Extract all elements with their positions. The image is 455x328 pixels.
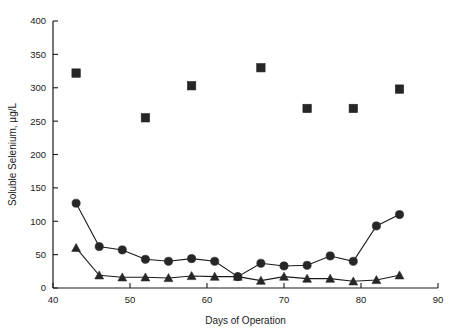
data-point-circle [164, 257, 172, 265]
x-axis-title: Days of Operation [205, 315, 286, 326]
x-tick-label: 90 [433, 294, 444, 305]
series-line-circles [76, 203, 399, 276]
data-point-square [72, 69, 80, 77]
y-tick-label: 250 [30, 116, 46, 127]
y-tick-label: 150 [30, 182, 46, 193]
y-tick-label: 400 [30, 15, 46, 26]
data-point-circle [118, 246, 126, 254]
data-point-square [187, 82, 195, 90]
y-tick-label: 200 [30, 149, 46, 160]
data-point-circle [303, 261, 311, 269]
y-tick-label: 350 [30, 49, 46, 60]
y-tick-label: 300 [30, 82, 46, 93]
selenium-scatter-chart: 050100150200250300350400 405060708090 Da… [0, 0, 455, 328]
data-point-circle [95, 243, 103, 251]
data-point-triangle [72, 244, 81, 252]
data-point-square [257, 64, 265, 72]
data-series-layer [72, 64, 404, 285]
data-point-square [141, 114, 149, 122]
data-point-circle [72, 199, 80, 207]
y-tick-label: 50 [35, 249, 46, 260]
data-point-circle [280, 262, 288, 270]
data-point-square [303, 104, 311, 112]
y-axis-ticks: 050100150200250300350400 [30, 15, 58, 293]
series-squares [72, 64, 404, 122]
data-point-circle [395, 210, 403, 218]
data-point-circle [326, 252, 334, 260]
x-tick-label: 80 [356, 294, 367, 305]
y-axis-title: Soluble Selenium, µg/L [7, 103, 18, 206]
x-tick-label: 50 [125, 294, 136, 305]
x-tick-label: 70 [279, 294, 290, 305]
x-axis-ticks: 405060708090 [48, 283, 444, 305]
data-point-circle [141, 255, 149, 263]
data-point-circle [257, 259, 265, 267]
y-tick-label: 0 [41, 282, 46, 293]
x-tick-label: 60 [202, 294, 213, 305]
chart-container: 050100150200250300350400 405060708090 Da… [0, 0, 455, 328]
y-tick-label: 100 [30, 216, 46, 227]
data-point-circle [349, 257, 357, 265]
data-point-triangle [280, 272, 289, 280]
series-circles [72, 199, 404, 281]
data-point-square [349, 104, 357, 112]
data-point-circle [188, 255, 196, 263]
data-point-circle [372, 222, 380, 230]
data-point-triangle [395, 271, 404, 279]
x-tick-label: 40 [48, 294, 59, 305]
data-point-circle [211, 257, 219, 265]
data-point-square [395, 85, 403, 93]
